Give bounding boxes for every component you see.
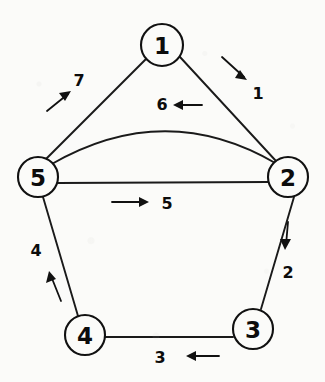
node-3-label: 3	[245, 317, 261, 343]
edge-6-curve	[50, 131, 277, 165]
edge-1-line	[180, 57, 276, 161]
node-1-label: 1	[154, 33, 170, 59]
node-group: 1 2 3 4 5	[18, 24, 308, 355]
node-5-label: 5	[30, 165, 46, 191]
edge-label-4: 4	[30, 241, 41, 260]
node-4-label: 4	[77, 323, 93, 349]
edge-7-direction-arrow	[47, 91, 71, 111]
graph-svg: 1 2 3 4 5 6 7 1 2 3 4	[0, 0, 325, 382]
edge-label-1: 1	[252, 84, 263, 103]
edge-4-direction-arrow	[46, 271, 61, 301]
edge-label-6: 6	[156, 95, 167, 114]
node-2-label: 2	[280, 165, 296, 191]
edge-1-direction-arrow	[222, 57, 247, 80]
node-4[interactable]: 4	[65, 315, 105, 355]
edge-5-direction-arrow	[112, 197, 149, 207]
diagram-canvas: 1 2 3 4 5 6 7 1 2 3 4	[0, 0, 325, 382]
node-2[interactable]: 2	[268, 157, 308, 197]
node-1[interactable]: 1	[141, 24, 183, 66]
edge-label-5: 5	[161, 194, 172, 213]
edge-7-line	[45, 59, 146, 160]
node-5[interactable]: 5	[18, 157, 58, 197]
edge-label-7: 7	[73, 71, 84, 90]
edge-3-direction-arrow	[186, 351, 219, 361]
edge-2-line	[261, 197, 294, 309]
edge-6-direction-arrow	[173, 100, 202, 110]
edge-5-line	[58, 182, 268, 183]
edge-label-2: 2	[282, 263, 293, 282]
edge-label-3: 3	[154, 348, 165, 367]
node-3[interactable]: 3	[233, 309, 273, 349]
